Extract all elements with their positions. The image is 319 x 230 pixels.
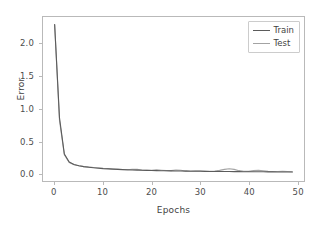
legend-swatch-train [253,30,270,31]
x-tick-mark [249,182,250,185]
y-axis-label: Error [16,59,26,119]
y-tick-label: 0.0 [8,169,34,179]
y-tick-mark [39,142,42,143]
figure: Train Test 0.00.51.01.52.0 01020304050 E… [0,0,319,230]
x-tick-label: 20 [140,187,164,197]
x-tick-mark [200,182,201,185]
x-tick-mark [298,182,299,185]
legend-item-test: Test [253,38,294,49]
y-tick-label: 2.0 [8,38,34,48]
x-tick-label: 0 [42,187,66,197]
y-tick-mark [39,109,42,110]
x-axis-label: Epochs [42,205,305,215]
plot-area: Train Test [42,16,305,182]
legend-label-test: Test [274,38,291,49]
x-tick-label: 50 [286,187,310,197]
y-tick-mark [39,43,42,44]
y-tick-mark [39,76,42,77]
legend-label-train: Train [274,25,294,36]
x-tick-mark [152,182,153,185]
x-tick-label: 30 [188,187,212,197]
y-tick-mark [39,174,42,175]
x-tick-mark [103,182,104,185]
x-tick-label: 10 [91,187,115,197]
x-tick-mark [54,182,55,185]
legend-swatch-test [253,43,270,44]
legend-item-train: Train [253,25,294,36]
y-tick-label: 0.5 [8,137,34,147]
legend: Train Test [248,21,300,53]
x-tick-label: 40 [237,187,261,197]
